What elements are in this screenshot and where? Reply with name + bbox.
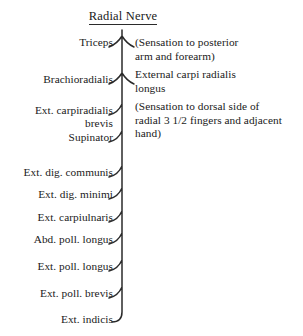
note-line: radial 3 1/2 fingers and adjacent [135,114,282,128]
radial-nerve-diagram: Radial Nerve Triceps Brachioradialis Ext… [0,0,303,336]
branch-label-triceps: Triceps [79,36,113,49]
branch-label-ext-poll-longus: Ext. poll. longus [37,260,113,273]
branch-label-ext-indicis: Ext. indicis [61,313,113,326]
branch-label-ext-dig-minimi: Ext. dig. minimi [38,188,113,201]
note-external-carpi-radialis-longus: External carpi radialis longus [135,68,236,95]
diagram-title-text: Radial Nerve [89,9,158,25]
branch-label-supinator: Supinator [69,131,113,144]
note-sensation-dorsal-hand: (Sensation to dorsal side of radial 3 1/… [135,100,282,141]
branch-label-ext-carpiulnaris: Ext. carpiulnaris [37,211,113,224]
note-line: (Sensation to dorsal side of [135,100,282,114]
branch-label-ext-poll-brevis: Ext. poll. brevis [40,287,113,300]
branch-label-brachioradialis: Brachioradialis [43,73,113,86]
note-line: External carpi radialis [135,68,236,82]
note-line: (Sensation to posterior [135,36,238,50]
branch-label-abd-poll-longus: Abd. poll. longus [34,233,113,246]
branch-label-ext-dig-communis: Ext. dig. communis [24,166,113,179]
branch-label-ext-carpiradialis-brevis: Ext. carpiradialis brevis [35,104,113,131]
note-sensation-posterior-arm: (Sensation to posterior arm and forearm) [135,36,238,63]
note-line: arm and forearm) [135,50,238,64]
note-line: hand) [135,127,282,141]
note-line: longus [135,82,236,96]
diagram-title: Radial Nerve [0,9,246,24]
